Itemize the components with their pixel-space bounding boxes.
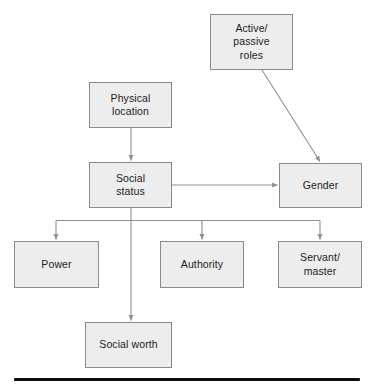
edge-active-passive-roles-to-gender — [262, 70, 320, 162]
node-active-passive-roles[interactable]: Active/ passive roles — [210, 14, 293, 70]
node-physical-location[interactable]: Physical location — [89, 82, 172, 128]
node-authority[interactable]: Authority — [160, 241, 244, 288]
bottom-divider-rule — [14, 378, 360, 381]
node-servant-master[interactable]: Servant/ master — [278, 241, 362, 288]
node-power[interactable]: Power — [14, 241, 99, 288]
node-social-worth[interactable]: Social worth — [85, 322, 172, 368]
node-social-status[interactable]: Social status — [89, 162, 172, 208]
flowchart-diagram: Active/ passive roles Physical location … — [0, 0, 377, 392]
node-gender[interactable]: Gender — [279, 163, 362, 208]
